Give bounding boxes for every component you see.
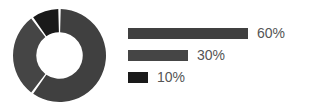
- legend-label-60: 60%: [257, 26, 285, 40]
- donut-chart: [12, 8, 107, 103]
- legend-item-10[interactable]: 10%: [128, 66, 303, 88]
- donut-slice-30[interactable]: [13, 19, 45, 93]
- legend-item-30[interactable]: 30%: [128, 44, 303, 66]
- legend-swatch-30: [128, 50, 188, 61]
- legend-swatch-10: [128, 72, 148, 83]
- legend-item-60[interactable]: 60%: [128, 22, 303, 44]
- legend-label-10: 10%: [157, 70, 185, 84]
- chart-legend: 60% 30% 10%: [128, 22, 303, 88]
- legend-swatch-60: [128, 28, 248, 39]
- donut-chart-figure: 60% 30% 10%: [0, 0, 310, 106]
- donut-slices: [13, 9, 106, 102]
- legend-label-30: 30%: [197, 48, 225, 62]
